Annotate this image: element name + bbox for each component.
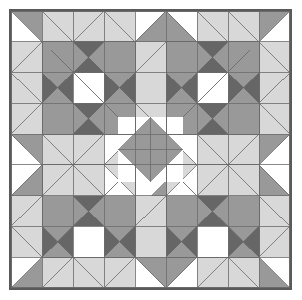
patch-r7-c6-solid <box>166 196 197 227</box>
patch-r4-c8-solid <box>228 103 259 134</box>
patch-r4-c2-solid <box>42 103 73 134</box>
patch-r7-c2-solid <box>42 196 73 227</box>
patch-r7-c8-solid <box>228 196 259 227</box>
patch-r7-c4-solid <box>104 196 135 227</box>
quilt-image-canvas <box>0 0 302 300</box>
patch-r3-c5-solid <box>135 73 166 104</box>
quilt-outer-border <box>9 9 292 290</box>
patch-r2-c6-solid <box>166 42 197 73</box>
quilt-pattern-svg <box>11 11 290 288</box>
patch-r8-c5-solid <box>135 226 166 257</box>
patch-r8-c7-solid <box>197 226 228 257</box>
patch-r8-c3-solid <box>73 226 104 257</box>
patch-r2-c4-solid <box>104 42 135 73</box>
